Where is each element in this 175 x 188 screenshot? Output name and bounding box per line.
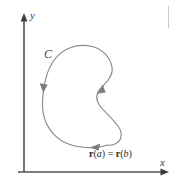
curve-label-c: C — [44, 48, 52, 60]
curve-direction-arrow-right-icon — [98, 85, 106, 94]
endpoint-label-close-paren-2: ) — [129, 148, 132, 159]
x-axis — [18, 169, 169, 176]
y-axis — [21, 13, 28, 172]
endpoint-label: r(a) = r(b) — [89, 149, 132, 159]
closed-curve-c — [40, 45, 122, 150]
x-axis-arrowhead-icon — [161, 169, 170, 176]
x-axis-label: x — [160, 157, 165, 168]
endpoint-label-equals: = — [105, 148, 116, 159]
curve-direction-arrow-left-icon — [40, 83, 48, 93]
y-axis-arrowhead-icon — [21, 13, 28, 22]
page-edge-artifact — [168, 6, 169, 28]
y-axis-label: y — [30, 10, 35, 21]
curve-path — [42, 45, 121, 147]
vector-calculus-figure: y x C r(a) = r(b) — [0, 0, 175, 188]
figure-canvas — [0, 0, 175, 188]
